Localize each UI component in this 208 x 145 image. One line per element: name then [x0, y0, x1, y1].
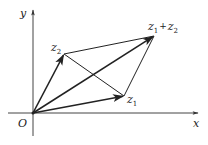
z1-label: z1 — [126, 93, 137, 108]
x-axis-label: x — [193, 117, 200, 130]
origin-label: O — [18, 117, 27, 130]
origin-point — [32, 112, 35, 115]
complex-addition-diagram: y x O z2 z1 z1+z2 — [0, 0, 208, 145]
vector-z2-arrow — [33, 55, 64, 113]
sum-label: z1+z2 — [147, 20, 178, 35]
y-axis-label: y — [19, 7, 27, 20]
z2-label: z2 — [50, 41, 61, 56]
